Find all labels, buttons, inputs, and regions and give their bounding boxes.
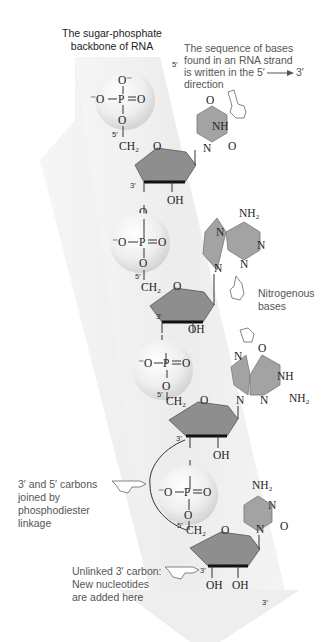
svg-text:O: O [139, 257, 147, 269]
svg-text:CH₂: CH₂ [186, 524, 206, 536]
svg-text:The sugar-phosphate: The sugar-phosphate [62, 27, 162, 39]
svg-text:N: N [257, 239, 266, 251]
svg-text:P: P [163, 357, 169, 369]
svg-text:is written in the 5′: is written in the 5′ [184, 66, 265, 78]
svg-text:OH: OH [188, 323, 205, 335]
svg-text:OH: OH [213, 449, 230, 461]
svg-text:N: N [203, 142, 212, 154]
svg-text:found in an RNA strand: found in an RNA strand [184, 54, 293, 66]
svg-text:OH: OH [232, 579, 249, 591]
svg-text:N: N [256, 523, 265, 535]
svg-text:3′: 3′ [200, 566, 206, 575]
phosphodiester-label-4: linkage [18, 517, 51, 529]
svg-text:⁻O: ⁻O [90, 93, 104, 105]
svg-text:N: N [216, 226, 225, 238]
rna-backbone-diagram: The sugar-phosphate backbone of RNA 5′ T… [0, 0, 334, 642]
svg-text:5′: 5′ [157, 390, 163, 399]
svg-text:CH₂: CH₂ [141, 281, 161, 293]
svg-text:5′: 5′ [135, 272, 141, 281]
svg-text:NH₂: NH₂ [289, 392, 310, 404]
svg-text:⁻O: ⁻O [112, 236, 126, 248]
unlinked-carbon-label-2: New nucleotides [72, 578, 149, 590]
svg-text:CH₂: CH₂ [119, 140, 139, 152]
svg-text:O: O [228, 140, 236, 152]
three-prime-end-label: 3′ [262, 598, 268, 607]
svg-text:P: P [139, 236, 145, 248]
svg-text:O: O [206, 94, 214, 106]
svg-text:O: O [203, 486, 211, 498]
svg-text:N: N [268, 499, 277, 511]
svg-text:OH: OH [206, 579, 223, 591]
nitrogenous-bases-label: Nitrogenous [258, 287, 315, 299]
svg-text:N: N [260, 394, 269, 406]
svg-text:P: P [184, 486, 190, 498]
svg-text:O: O [137, 93, 145, 105]
phosphodiester-label-2: joined by [17, 491, 61, 503]
svg-text:O: O [221, 524, 229, 536]
svg-text:5′: 5′ [177, 521, 183, 530]
svg-text:O: O [182, 357, 190, 369]
phosphodiester-label-3: phosphodiester [18, 504, 90, 516]
svg-text:3′: 3′ [156, 312, 162, 321]
svg-text:O: O [153, 140, 161, 152]
pointing-hand-icon [228, 90, 246, 118]
svg-text:O: O [258, 342, 266, 354]
svg-text:N: N [240, 258, 249, 270]
backbone-title: The sugar-phosphate backbone of RNA [62, 27, 162, 52]
svg-text:O: O [162, 380, 170, 392]
pointing-hand-icon [240, 328, 254, 342]
svg-text:NH: NH [212, 120, 229, 132]
svg-text:N: N [236, 394, 245, 406]
svg-text:N: N [214, 262, 223, 274]
svg-text:O: O [184, 509, 192, 521]
svg-text:CH₂: CH₂ [166, 395, 186, 407]
svg-text:N: N [234, 350, 243, 362]
unlinked-carbon-label: Unlinked 3′ carbon: [72, 565, 162, 577]
svg-text:direction: direction [184, 78, 224, 90]
svg-text:The sequence of bases: The sequence of bases [184, 42, 293, 54]
svg-text:O: O [200, 394, 208, 406]
svg-text:5′: 5′ [172, 60, 178, 69]
svg-text:backbone of RNA: backbone of RNA [71, 40, 153, 52]
phosphodiester-label: 3′ and 5′ carbons [18, 478, 97, 490]
svg-text:NH₂: NH₂ [252, 479, 273, 491]
svg-text:3′: 3′ [296, 66, 304, 78]
svg-text:OH: OH [167, 194, 184, 206]
svg-text:O: O [280, 520, 288, 532]
svg-text:5′: 5′ [112, 130, 118, 139]
direction-note: 5′ The sequence of bases found in an RNA… [172, 42, 304, 118]
svg-text:O⁻: O⁻ [118, 74, 132, 86]
nitrogenous-bases-label-2: bases [258, 300, 286, 312]
unlinked-carbon-label-3: are added here [72, 591, 143, 603]
svg-text:NH₂: NH₂ [239, 207, 260, 219]
svg-text:⁻O: ⁻O [158, 486, 172, 498]
svg-text:P: P [118, 93, 124, 105]
svg-text:NH: NH [277, 370, 294, 382]
svg-text:O: O [173, 280, 181, 292]
pointing-hand-icon [230, 276, 244, 300]
svg-text:O: O [118, 114, 126, 126]
svg-text:3′: 3′ [130, 181, 136, 190]
svg-text:⁻O: ⁻O [138, 357, 152, 369]
svg-text:O: O [158, 236, 166, 248]
